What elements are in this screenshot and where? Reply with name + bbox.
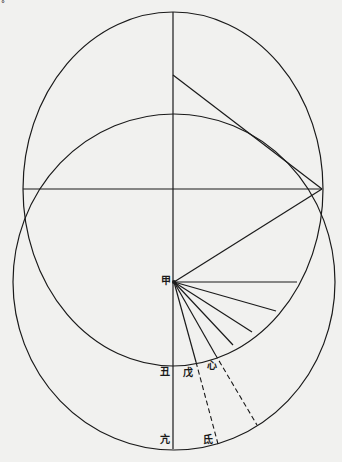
label-chou: 丑 [160, 367, 170, 377]
label-di: 氐 [203, 435, 213, 445]
label-kang: 亢 [160, 435, 170, 445]
jia-to-right-point [174, 189, 322, 282]
label-jia: 甲 [161, 276, 171, 286]
fan-line-2 [174, 282, 276, 311]
label-xin: 心 [207, 361, 217, 371]
speck-mark: ° [1, 0, 5, 8]
label-wu: 戊 [183, 368, 193, 378]
fan-line-5 [174, 282, 215, 354]
diagram-canvas [0, 0, 342, 462]
tangent-line [173, 75, 322, 189]
origin-point-jia [172, 280, 176, 284]
dashed-line-xin [215, 354, 257, 425]
dashed-line-wu-di [196, 362, 218, 444]
